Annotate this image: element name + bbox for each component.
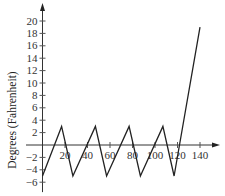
y-tick-label: 4 xyxy=(32,114,38,126)
y-tick-label: −4 xyxy=(26,163,38,175)
y-axis: −6−4−22468101214161820 xyxy=(26,3,46,192)
y-tick-label: 2 xyxy=(32,126,38,138)
y-tick-label: 14 xyxy=(27,52,39,64)
y-tick-label: 10 xyxy=(27,77,39,89)
y-tick-label: 20 xyxy=(27,15,39,27)
y-tick-label: −6 xyxy=(26,176,38,188)
y-tick-label: 18 xyxy=(27,27,39,39)
line-chart: −6−4−22468101214161820 20406080100120140… xyxy=(0,0,225,196)
y-tick-label: 16 xyxy=(27,39,39,51)
y-tick-label: 8 xyxy=(32,89,38,101)
x-axis-arrow-icon xyxy=(212,143,220,148)
y-tick-label: 12 xyxy=(27,64,38,76)
y-axis-title: Degrees (Fahrenheit) xyxy=(6,71,19,169)
y-tick-label: −2 xyxy=(26,151,38,163)
y-tick-label: 6 xyxy=(32,101,38,113)
x-tick-label: 140 xyxy=(192,149,209,161)
y-axis-arrow-icon xyxy=(40,3,45,11)
